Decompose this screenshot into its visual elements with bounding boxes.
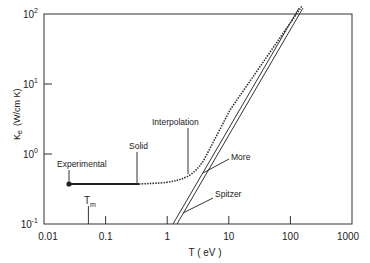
svg-text:101: 101 <box>23 77 38 90</box>
svg-text:1000: 1000 <box>337 231 360 242</box>
y-ticks <box>44 84 52 154</box>
svg-text:102: 102 <box>23 7 38 20</box>
svg-text:100: 100 <box>282 231 299 242</box>
annotation-solid: Solid <box>129 141 148 151</box>
x-ticks <box>88 206 290 224</box>
annotation-spitzer: Spitzer <box>215 189 242 199</box>
svg-text:0.1: 0.1 <box>99 231 113 242</box>
experimental-marker <box>66 181 71 186</box>
annotation-more: More <box>231 152 251 162</box>
svg-text:κe(W/cm K): κe(W/cm K) <box>10 89 24 140</box>
x-axis-label: T ( eV ) <box>188 247 221 258</box>
svg-text:100: 100 <box>23 147 38 160</box>
annotation-interpolation: Interpolation <box>152 117 199 127</box>
y-tick-labels: 10-1 100 101 102 <box>21 7 38 230</box>
svg-text:10: 10 <box>223 231 235 242</box>
x-tick-labels: 0.01 0.1 1 10 100 1000 <box>38 231 359 242</box>
chart: 0.01 0.1 1 10 100 1000 10-1 100 101 102 … <box>0 0 370 263</box>
series-interpolation <box>139 6 302 184</box>
svg-text:1: 1 <box>164 231 170 242</box>
svg-text:0.01: 0.01 <box>38 231 58 242</box>
svg-text:10-1: 10-1 <box>21 217 38 230</box>
annotations: Experimental Solid Interpolation More Sp… <box>57 117 251 213</box>
y-axis-label: κe(W/cm K) <box>10 89 24 140</box>
annotation-experimental: Experimental <box>57 159 107 169</box>
annotation-tm: Tm <box>84 195 96 208</box>
